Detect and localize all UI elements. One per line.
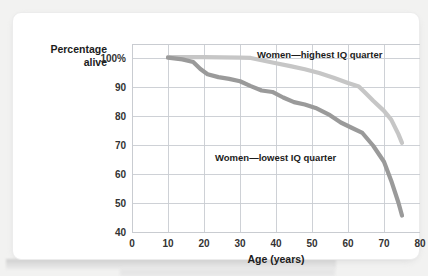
- x-axis-tick-label: 10: [155, 239, 181, 249]
- y-axis-tick-label: 50: [92, 199, 126, 209]
- x-axis-tick-label: 30: [227, 239, 253, 249]
- x-axis-tick-label: 80: [407, 239, 428, 249]
- x-axis-tick-label: 20: [191, 239, 217, 249]
- y-axis-tick-label: 80: [92, 112, 126, 122]
- plot-area: [132, 44, 420, 233]
- y-axis-tick-label: 100%: [92, 54, 126, 64]
- x-axis-tick-label: 60: [335, 239, 361, 249]
- x-axis-tick-label: 40: [263, 239, 289, 249]
- series-line-lowest-iq: [168, 58, 402, 216]
- y-axis-tick-label: 60: [92, 170, 126, 180]
- series-label-lowest-iq: Women—lowest IQ quarter: [215, 152, 336, 163]
- x-axis-tick-label: 70: [371, 239, 397, 249]
- plot-svg: [132, 44, 420, 233]
- series-label-highest-iq: Women—highest IQ quarter: [257, 49, 382, 60]
- x-axis-title: Age (years): [132, 253, 420, 265]
- card-shadow-strip-secondary: [120, 268, 335, 276]
- figure-card: Percentage alive 405060708090100% 010203…: [12, 12, 420, 260]
- x-axis-tick-label: 0: [119, 239, 145, 249]
- x-axis-tick-label: 50: [299, 239, 325, 249]
- y-axis-tick-label: 70: [92, 141, 126, 151]
- y-axis-tick-label: 90: [92, 83, 126, 93]
- chart-screenshot: Percentage alive 405060708090100% 010203…: [0, 0, 428, 276]
- y-axis-tick-label: 40: [92, 228, 126, 238]
